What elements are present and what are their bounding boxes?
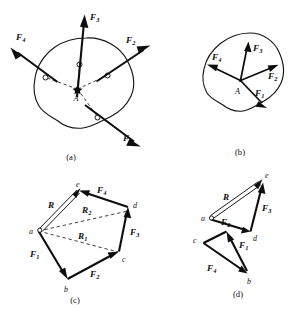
force-label-f2-a: F2: [125, 35, 136, 46]
arrow-head-f1-d: [227, 232, 235, 243]
dash-line-to-f4: [47, 78, 78, 89]
point-label-a-panel-b: A: [234, 87, 241, 96]
arrow-head-f3-a: [80, 15, 88, 29]
resultant-r-shaft-upper-c: [40, 190, 78, 229]
force-label-f4-c: F4: [96, 185, 106, 196]
force-label-f3-b: F3: [252, 43, 263, 54]
arrow-head-f2-d: [241, 227, 251, 234]
force-label-f4-b: F4: [211, 52, 221, 63]
force-vector-f3-b: [241, 48, 248, 81]
resultant-r-shaft-lower-c: [42, 193, 79, 232]
caption-b: (b): [235, 147, 245, 157]
polygon-edge-to-c-d: [204, 232, 227, 244]
force-label-f2-b: F2: [267, 71, 278, 82]
vertex-label-e-c: e: [76, 180, 80, 189]
force-label-f3-d: F3: [261, 203, 272, 214]
panel-a: F3 F2 F4 F1 A (a): [11, 12, 151, 162]
body-outline-a: [34, 38, 134, 128]
force-label-f1-a: F1: [122, 133, 132, 144]
vertex-point-a-d: [209, 216, 213, 220]
vertex-label-a-c: a: [29, 227, 33, 236]
panel-c: F1 F2 F3 F4 R R2 R1: [29, 180, 140, 305]
panel-d: F2 F3 F1 F4 R a b c d e: [193, 171, 272, 299]
resultant-label-r1-c: R1: [77, 231, 87, 242]
vertex-label-e-d: e: [265, 171, 269, 180]
caption-d: (d): [233, 289, 243, 299]
vertex-label-d-c: d: [133, 201, 138, 210]
vertex-point-a-c: [38, 228, 42, 232]
force-label-f1-d: F1: [238, 240, 248, 251]
resultant-label-r2-c: R2: [81, 205, 92, 216]
resultant-label-r-d: R: [222, 192, 229, 202]
point-label-a-panel-a: A: [73, 94, 80, 103]
panel-b: F3 F2 F4 F1 A (b): [203, 33, 283, 157]
force-label-f1-c: F1: [29, 249, 39, 260]
arrow-head-f4-c: [79, 190, 90, 197]
resultant-r-shaft-lower-d: [213, 185, 261, 219]
force-label-f2-c: F2: [89, 269, 100, 280]
arrow-head-f4-b: [207, 65, 218, 72]
vertex-label-a-d: a: [201, 214, 205, 223]
resultant-r-shaft-upper-d: [211, 182, 259, 216]
vertex-label-d-d: d: [253, 234, 258, 243]
force-label-f3-c: F3: [129, 227, 140, 238]
arrow-head-f2-c: [108, 252, 119, 259]
vertex-label-b-d: b: [247, 277, 251, 286]
force-vector-f3-d: [251, 190, 262, 232]
figure-root: F3 F2 F4 F1 A (a) F3: [0, 0, 305, 309]
force-vector-f3-c: [119, 214, 127, 252]
force-label-f4-d: F4: [206, 263, 216, 274]
application-point-f4: [43, 75, 48, 80]
force-label-f2-d: F2: [220, 217, 231, 228]
force-vector-f1-c: [39, 231, 64, 272]
arrow-head-f3-c: [124, 207, 132, 218]
vertex-label-c-d: c: [193, 236, 197, 245]
force-label-f1-b: F1: [254, 88, 264, 99]
arrow-head-f3-b: [244, 42, 251, 53]
vertex-label-b-c: b: [64, 285, 68, 294]
caption-a: (a): [66, 152, 76, 162]
force-vector-f3-a: [77, 23, 84, 98]
force-label-f4-a: F4: [15, 32, 25, 43]
force-vector-f4-b: [214, 68, 241, 81]
force-vector-f4-a: [18, 53, 58, 83]
force-label-f3-a: F3: [89, 12, 100, 23]
vertex-label-c-c: c: [122, 255, 126, 264]
caption-c: (c): [70, 295, 80, 305]
arrow-head-f2-a: [137, 46, 151, 54]
figure-canvas: F3 F2 F4 F1 A (a) F3: [0, 0, 305, 309]
force-vector-f4-c: [86, 193, 128, 207]
resultant-label-r-c: R: [47, 200, 54, 210]
force-vector-f2-a: [97, 50, 144, 82]
